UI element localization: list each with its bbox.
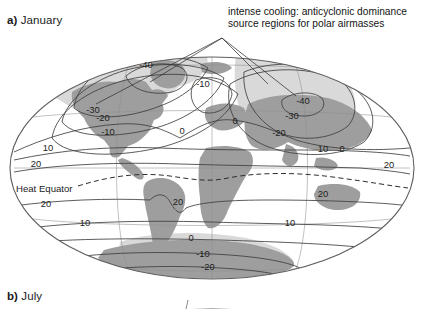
isotherm-label: 10 — [43, 142, 53, 153]
isotherm-label: 20 — [384, 159, 394, 170]
isotherm-label: -20 — [201, 261, 215, 272]
isotherm-label: -20 — [96, 112, 110, 123]
isotherm-label: -10 — [196, 78, 210, 89]
isotherm-label: 20 — [173, 196, 183, 207]
isotherm-label: -10 — [101, 126, 115, 137]
isotherm-label: 10 — [318, 143, 328, 154]
isotherm-label: 20 — [31, 158, 41, 169]
isotherm-label: -30 — [285, 110, 299, 121]
isotherm-label: 20 — [41, 198, 51, 209]
isotherm-label: 10 — [80, 217, 90, 228]
isotherm-label: 0 — [339, 143, 344, 154]
isotherm-label: 10 — [285, 217, 295, 228]
july-meridian-tick — [186, 300, 188, 309]
isotherm-label: -40 — [139, 59, 153, 70]
isotherm-label: 0 — [232, 115, 237, 126]
isotherm-label: 20 — [318, 188, 328, 199]
isotherm-label: 0 — [188, 232, 193, 243]
isotherm-label: 0 — [179, 125, 184, 136]
world-temperature-map: -40 -40 -30 -30 -20 -20 -10 -10 0 0 0 10… — [0, 0, 423, 309]
january-map-body — [0, 49, 423, 290]
isotherm-label: -40 — [296, 95, 310, 106]
heat-equator-label: Heat Equator — [16, 183, 73, 194]
isotherm-label: -20 — [272, 127, 286, 138]
isotherm-label: -10 — [196, 248, 210, 259]
